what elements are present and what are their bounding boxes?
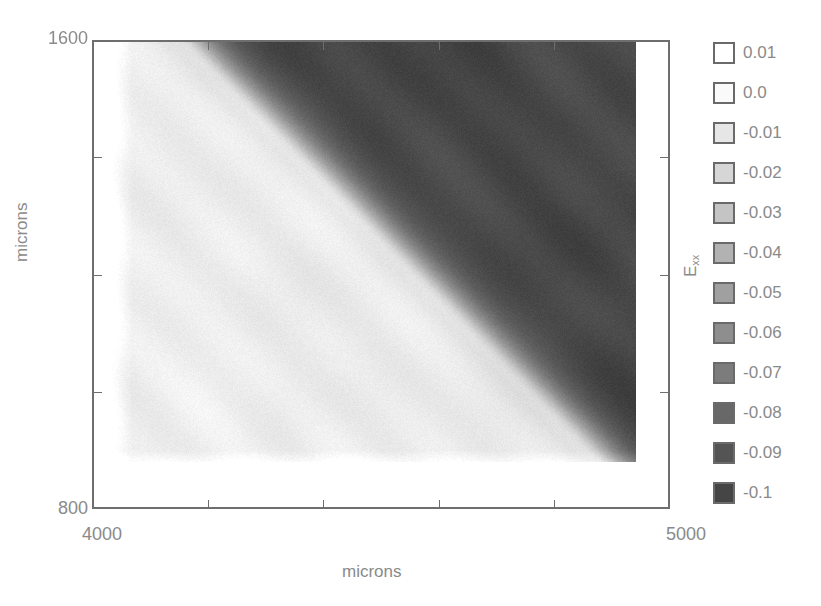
heatmap-image <box>112 42 636 462</box>
x-axis-label: microns <box>342 562 402 582</box>
colorbar-label-main: E <box>681 266 700 277</box>
legend-label: -0.09 <box>743 443 782 463</box>
y-tick <box>94 157 102 158</box>
chart-title-cropped <box>250 0 670 6</box>
x-tick <box>439 42 440 50</box>
legend-item: -0.1 <box>713 482 772 504</box>
y-tick <box>660 392 668 393</box>
legend-label: -0.01 <box>743 123 782 143</box>
colorbar-label-sub: xx <box>689 255 701 266</box>
legend-swatch <box>713 122 735 144</box>
legend-swatch <box>713 282 735 304</box>
legend-item: 0.01 <box>713 42 776 64</box>
legend-item: -0.09 <box>713 442 782 464</box>
y-tick-label-800: 800 <box>28 498 88 519</box>
legend-swatch <box>713 442 735 464</box>
y-tick <box>94 275 102 276</box>
y-axis-label: microns <box>12 202 32 262</box>
legend-swatch <box>713 82 735 104</box>
legend-swatch <box>713 482 735 504</box>
legend-swatch <box>713 42 735 64</box>
legend-item: -0.01 <box>713 122 782 144</box>
legend-label: -0.05 <box>743 283 782 303</box>
legend-item: -0.07 <box>713 362 782 384</box>
legend-swatch <box>713 362 735 384</box>
x-tick <box>323 500 324 508</box>
legend-label: 0.01 <box>743 43 776 63</box>
legend-label: 0.0 <box>743 83 767 103</box>
x-tick <box>208 500 209 508</box>
legend-label: -0.07 <box>743 363 782 383</box>
x-tick <box>439 500 440 508</box>
legend-item: -0.04 <box>713 242 782 264</box>
legend-item: -0.02 <box>713 162 782 184</box>
x-tick-label-5000: 5000 <box>646 524 726 545</box>
y-tick-label-1600: 1600 <box>28 28 88 49</box>
legend-item: -0.08 <box>713 402 782 424</box>
legend-item: -0.03 <box>713 202 782 224</box>
legend-label: -0.08 <box>743 403 782 423</box>
x-tick-label-4000: 4000 <box>62 524 142 545</box>
x-tick <box>208 42 209 50</box>
legend-swatch <box>713 162 735 184</box>
y-tick <box>660 157 668 158</box>
colorbar-label: Exx <box>681 255 701 277</box>
legend-label: -0.02 <box>743 163 782 183</box>
y-tick <box>660 275 668 276</box>
legend-item: -0.05 <box>713 282 782 304</box>
legend-label: -0.04 <box>743 243 782 263</box>
x-tick <box>554 500 555 508</box>
x-tick <box>323 42 324 50</box>
legend-item: -0.06 <box>713 322 782 344</box>
legend-label: -0.1 <box>743 483 772 503</box>
legend-label: -0.06 <box>743 323 782 343</box>
legend-swatch <box>713 202 735 224</box>
x-tick <box>554 42 555 50</box>
y-tick <box>94 392 102 393</box>
legend-item: 0.0 <box>713 82 767 104</box>
legend-label: -0.03 <box>743 203 782 223</box>
legend-swatch <box>713 322 735 344</box>
legend-swatch <box>713 402 735 424</box>
legend-swatch <box>713 242 735 264</box>
